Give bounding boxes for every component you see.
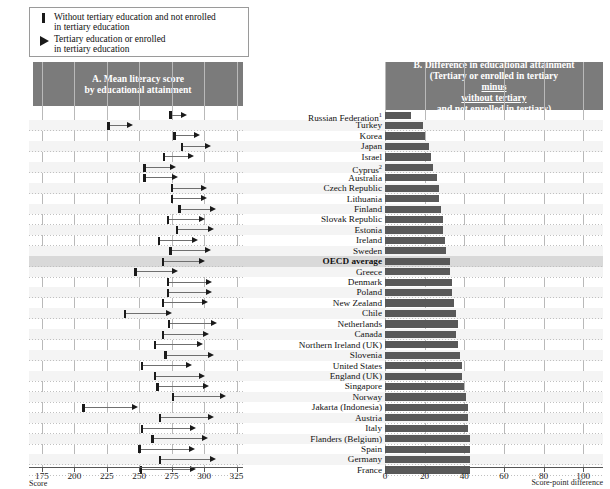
- with-tertiary-marker: [211, 320, 217, 326]
- country-label: Germany: [243, 454, 385, 464]
- without-tertiary-marker: [154, 341, 156, 349]
- with-tertiary-marker: [210, 206, 216, 212]
- country-label: Slovenia: [243, 350, 385, 360]
- range-connector: [144, 167, 171, 168]
- range-connector: [182, 146, 207, 147]
- axis-tick-label: 325: [230, 471, 244, 481]
- range-connector: [142, 365, 189, 366]
- country-label: Estonia: [243, 225, 385, 235]
- panel-b-row: [385, 298, 603, 308]
- without-tertiary-marker: [138, 445, 140, 453]
- axis-tick-label: 300: [197, 471, 211, 481]
- panel-b-row: [385, 454, 603, 464]
- country-label: Israel: [243, 152, 385, 162]
- panel-a-row: [29, 183, 243, 193]
- panel-a-row: [29, 434, 243, 444]
- difference-bar: [385, 393, 466, 400]
- panel-b-row: [385, 204, 603, 214]
- range-connector: [169, 323, 213, 324]
- country-label: Flanders (Belgium): [243, 434, 385, 444]
- range-connector: [108, 125, 129, 126]
- cut-off-title-text: [255, 0, 605, 5]
- difference-bar: [385, 132, 425, 139]
- panel-a-row: [29, 454, 243, 464]
- panel-a-rows: [29, 110, 243, 475]
- without-tertiary-marker: [173, 132, 175, 140]
- with-tertiary-marker: [210, 456, 216, 462]
- with-tertiary-marker: [205, 143, 211, 149]
- axis-tick-label: 60: [499, 471, 508, 481]
- difference-bar: [385, 112, 411, 119]
- country-label: France: [243, 465, 385, 475]
- with-tertiary-marker: [190, 425, 196, 431]
- without-tertiary-marker: [158, 237, 160, 245]
- legend-label-line2: in tertiary education: [54, 22, 216, 32]
- panel-b-row: [385, 402, 603, 412]
- without-tertiary-marker: [171, 195, 173, 203]
- panel-a-row: [29, 194, 243, 204]
- difference-bar: [385, 352, 460, 359]
- range-connector: [177, 229, 211, 230]
- panel-b-axis-label: Score-point difference: [531, 478, 603, 487]
- panel-a-axis-label: Score: [29, 479, 47, 488]
- panel-a-row: [29, 361, 243, 371]
- range-connector: [168, 219, 202, 220]
- panel-b-row: [385, 277, 603, 287]
- range-connector: [170, 250, 206, 251]
- with-tertiary-marker: [192, 237, 198, 243]
- panel-b-row: [385, 361, 603, 371]
- country-label: Cyprus2: [243, 162, 385, 172]
- difference-bar: [385, 226, 443, 233]
- panel-a-row: [29, 256, 243, 266]
- range-connector: [83, 407, 133, 408]
- panel-a-row: [29, 402, 243, 412]
- panel-a-row: [29, 225, 243, 235]
- panel-a-row: [29, 298, 243, 308]
- difference-bar: [385, 122, 423, 129]
- country-label: Spain: [243, 444, 385, 454]
- range-connector: [165, 355, 210, 356]
- difference-bar: [385, 153, 431, 160]
- range-connector: [172, 188, 203, 189]
- panel-a-row: [29, 141, 243, 151]
- thick-bar-glyph-icon: [39, 13, 51, 24]
- panel-b-row: [385, 329, 603, 339]
- panel-a-row: [29, 371, 243, 381]
- range-connector: [164, 156, 190, 157]
- without-tertiary-marker: [151, 435, 153, 443]
- with-tertiary-marker: [206, 289, 212, 295]
- country-label: Norway: [243, 392, 385, 402]
- country-label: Lithuania: [243, 194, 385, 204]
- panel-b-row: [385, 225, 603, 235]
- without-tertiary-marker: [164, 351, 166, 359]
- with-tertiary-marker: [208, 226, 214, 232]
- without-tertiary-marker: [162, 258, 164, 266]
- panel-b-row: [385, 308, 603, 318]
- without-tertiary-marker: [169, 247, 171, 255]
- with-tertiary-marker: [127, 122, 133, 128]
- with-tertiary-marker: [199, 258, 205, 264]
- with-tertiary-marker: [202, 435, 208, 441]
- difference-bar: [385, 195, 439, 202]
- panel-a-row: [29, 319, 243, 329]
- without-tertiary-marker: [143, 164, 145, 172]
- country-label: Czech Republic: [243, 183, 385, 193]
- legend-label-line2: in tertiary education: [54, 44, 166, 54]
- with-tertiary-marker: [205, 247, 211, 253]
- panel-b-row: [385, 141, 603, 151]
- panel-b-row: [385, 173, 603, 183]
- panel-a-row: [29, 246, 243, 256]
- with-tertiary-marker: [201, 185, 207, 191]
- country-label: Canada: [243, 329, 385, 339]
- panel-b-row: [385, 246, 603, 256]
- panel-a-row: [29, 152, 243, 162]
- with-tertiary-marker: [181, 112, 187, 118]
- difference-bar: [385, 383, 464, 390]
- without-tertiary-marker: [82, 404, 84, 412]
- without-tertiary-marker: [143, 174, 145, 182]
- panel-a-row: [29, 340, 243, 350]
- panel-a-row: [29, 173, 243, 183]
- range-connector: [142, 428, 192, 429]
- with-tertiary-marker: [166, 310, 172, 316]
- difference-bar: [385, 279, 452, 286]
